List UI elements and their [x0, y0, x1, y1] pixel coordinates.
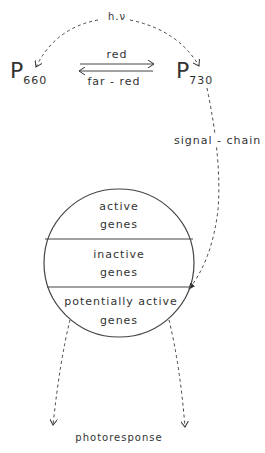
section-inactive-line2: genes [100, 266, 138, 279]
p660-symbol: P [10, 58, 23, 83]
p660-state: P660 [10, 58, 47, 87]
hv-label: h.ν [108, 11, 126, 22]
section-potential-line2: genes [100, 314, 138, 327]
section-potential-line1: potentially active [64, 295, 177, 308]
section-active-line2: genes [100, 218, 138, 231]
section-active-line1: active [99, 200, 138, 213]
red-label: red [106, 48, 127, 61]
p730-state: P730 [176, 58, 213, 87]
signal-chain-label: signal - chain [173, 134, 262, 147]
photoresponse-label: photoresponse [75, 432, 162, 443]
p730-symbol: P [176, 58, 189, 83]
output-arrow-right [169, 320, 185, 427]
p660-subscript: 660 [23, 74, 47, 87]
section-inactive-line1: inactive [93, 248, 144, 261]
p730-subscript: 730 [189, 74, 213, 87]
far-red-label: far - red [87, 75, 140, 88]
output-arrow-left [53, 320, 70, 425]
